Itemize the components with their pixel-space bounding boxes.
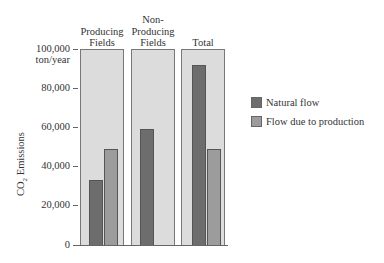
bar-natural-flow-total bbox=[192, 65, 206, 245]
bar-natural-flow-producing bbox=[89, 180, 103, 245]
y-tick bbox=[73, 205, 78, 206]
y-tick bbox=[73, 49, 78, 50]
x-axis-baseline bbox=[73, 245, 228, 246]
y-axis-unit: ton/year bbox=[36, 54, 70, 65]
legend-swatch-natural-flow bbox=[251, 97, 262, 108]
legend-item-natural-flow: Natural flow bbox=[251, 97, 319, 108]
y-tick-label-0: 0 bbox=[65, 239, 70, 250]
y-axis-label: CO2 Emissions bbox=[15, 124, 29, 204]
y-tick-label-100000: 100,000 bbox=[36, 43, 70, 54]
legend-swatch-production bbox=[251, 116, 262, 127]
y-tick bbox=[73, 127, 78, 128]
legend-item-flow-due-to-production: Flow due to production bbox=[251, 116, 364, 127]
y-tick-label-60000: 60,000 bbox=[41, 121, 70, 132]
bar-production-flow-total bbox=[207, 149, 221, 245]
y-tick-label-20000: 20,000 bbox=[41, 199, 70, 210]
y-tick bbox=[73, 166, 78, 167]
bar-production-flow-producing bbox=[104, 149, 118, 245]
panel-total bbox=[181, 49, 225, 245]
legend-label: Flow due to production bbox=[266, 116, 364, 127]
panel-producing-fields bbox=[80, 49, 124, 245]
panel-title-total: Total bbox=[173, 14, 233, 49]
y-tick bbox=[73, 88, 78, 89]
bar-natural-flow-non-producing bbox=[140, 129, 154, 245]
y-tick-label-80000: 80,000 bbox=[41, 82, 70, 93]
panel-non-producing-fields bbox=[131, 49, 175, 245]
legend-label: Natural flow bbox=[266, 97, 319, 108]
y-tick-label-40000: 40,000 bbox=[41, 160, 70, 171]
